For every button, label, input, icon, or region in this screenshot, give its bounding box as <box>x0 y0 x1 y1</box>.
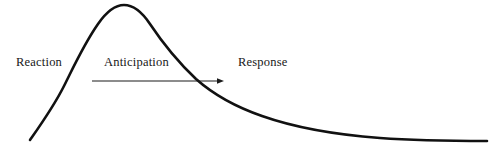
curve-canvas <box>0 0 491 156</box>
arousal-curve-diagram: Reaction Anticipation Response <box>0 0 491 156</box>
label-response: Response <box>238 56 288 69</box>
anticipation-arrow-head <box>217 78 224 84</box>
arousal-curve-path <box>30 5 487 141</box>
label-anticipation: Anticipation <box>104 56 169 69</box>
label-reaction: Reaction <box>16 56 62 69</box>
